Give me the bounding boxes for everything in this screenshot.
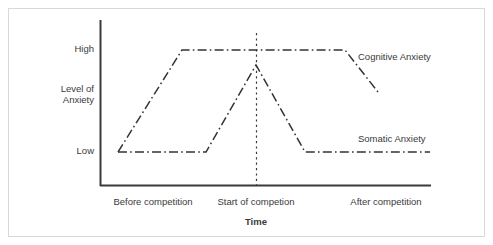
y-axis-title: Level of Anxiety <box>40 83 94 105</box>
y-axis-tick-low: Low <box>44 145 94 156</box>
x-axis-tick-before-competition: Before competition <box>103 196 203 207</box>
series-line-cognitive-anxiety <box>118 50 378 152</box>
series-label-somatic-anxiety: Somatic Anxiety <box>358 133 426 144</box>
y-axis-tick-high: High <box>44 43 94 54</box>
anxiety-over-time-chart <box>0 0 493 245</box>
y-axis-title-line1: Level of <box>40 83 94 94</box>
x-axis-title: Time <box>207 216 305 227</box>
x-axis-tick-after-competition: After competition <box>338 196 434 207</box>
y-axis-title-line2: Anxiety <box>40 94 94 105</box>
series-label-cognitive-anxiety: Cognitive Anxiety <box>358 51 431 62</box>
x-axis-tick-start-of-competition: Start of competion <box>207 196 305 207</box>
